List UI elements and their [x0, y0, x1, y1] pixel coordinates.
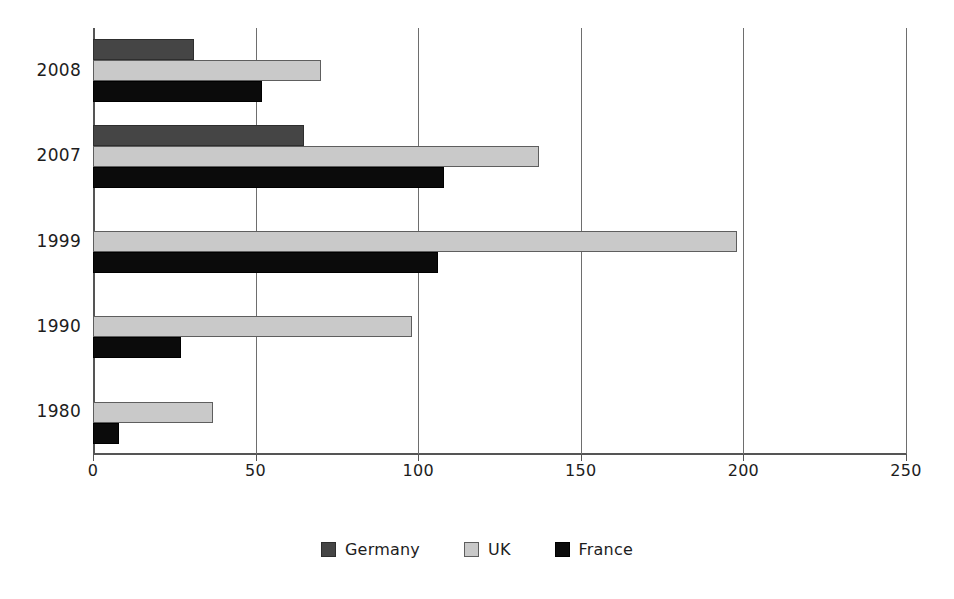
plot-area [93, 28, 906, 455]
legend-item-france[interactable]: France [555, 540, 633, 559]
legend-label-germany: Germany [345, 540, 420, 559]
bar-group-2008 [93, 28, 906, 113]
bar-uk-2007 [93, 146, 539, 167]
tick-mark-0 [93, 454, 94, 461]
y-category-label-1980: 1980 [0, 401, 93, 421]
chart-legend: GermanyUKFrance [0, 540, 954, 559]
bar-uk-2008 [93, 60, 321, 81]
legend-item-uk[interactable]: UK [464, 540, 511, 559]
legend-label-france: France [579, 540, 633, 559]
bar-row [93, 423, 906, 444]
tick-mark-200 [743, 454, 744, 461]
bar-france-1999 [93, 252, 438, 273]
bar-row [93, 210, 906, 231]
bar-germany-2008 [93, 39, 194, 60]
tick-mark-250 [906, 454, 907, 461]
legend-swatch-france-icon [555, 542, 570, 557]
y-category-label-2007: 2007 [0, 145, 93, 165]
bar-row [93, 252, 906, 273]
bar-group-1990 [93, 284, 906, 369]
x-tick-label-50: 50 [245, 461, 266, 480]
bar-chart: 050100150200250 20082007199919901980 Ger… [0, 0, 954, 599]
bar-uk-1990 [93, 316, 412, 337]
legend-swatch-uk-icon [464, 542, 479, 557]
bar-uk-1980 [93, 402, 213, 423]
gridline-250 [906, 28, 907, 455]
tick-mark-50 [256, 454, 257, 461]
bar-row [93, 316, 906, 337]
bar-france-1990 [93, 337, 181, 358]
tick-mark-150 [581, 454, 582, 461]
bar-row [93, 231, 906, 252]
bar-france-2007 [93, 167, 444, 188]
bar-row [93, 125, 906, 146]
bar-row [93, 146, 906, 167]
bar-group-1999 [93, 199, 906, 284]
legend-swatch-germany-icon [321, 542, 336, 557]
x-tick-label-0: 0 [88, 461, 98, 480]
x-tick-label-100: 100 [402, 461, 433, 480]
bar-germany-2007 [93, 125, 304, 146]
bar-row [93, 295, 906, 316]
bar-uk-1999 [93, 231, 737, 252]
bar-row [93, 337, 906, 358]
bar-france-1980 [93, 423, 119, 444]
bar-row [93, 381, 906, 402]
bar-row [93, 402, 906, 423]
x-tick-label-250: 250 [890, 461, 921, 480]
y-category-label-1990: 1990 [0, 316, 93, 336]
bar-row [93, 167, 906, 188]
bar-group-2007 [93, 113, 906, 198]
legend-item-germany[interactable]: Germany [321, 540, 420, 559]
legend-label-uk: UK [488, 540, 511, 559]
y-category-label-1999: 1999 [0, 231, 93, 251]
bar-group-1980 [93, 370, 906, 455]
tick-mark-100 [418, 454, 419, 461]
y-category-label-2008: 2008 [0, 60, 93, 80]
bar-row [93, 60, 906, 81]
bar-france-2008 [93, 81, 262, 102]
bar-row [93, 39, 906, 60]
bar-row [93, 81, 906, 102]
x-tick-label-150: 150 [565, 461, 596, 480]
x-tick-label-200: 200 [728, 461, 759, 480]
